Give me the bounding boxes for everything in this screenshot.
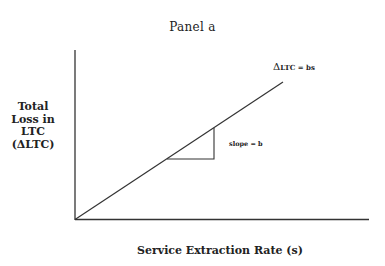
line-equation-text: LTC = bs xyxy=(280,63,315,72)
slope-label: slope = b xyxy=(229,140,263,148)
line-equation-label: ΔLTC = bs xyxy=(273,61,315,72)
x-axis-label: Service Extraction Rate (s) xyxy=(60,244,380,257)
linear-loss-line xyxy=(75,82,283,220)
diagram-canvas xyxy=(0,0,385,266)
